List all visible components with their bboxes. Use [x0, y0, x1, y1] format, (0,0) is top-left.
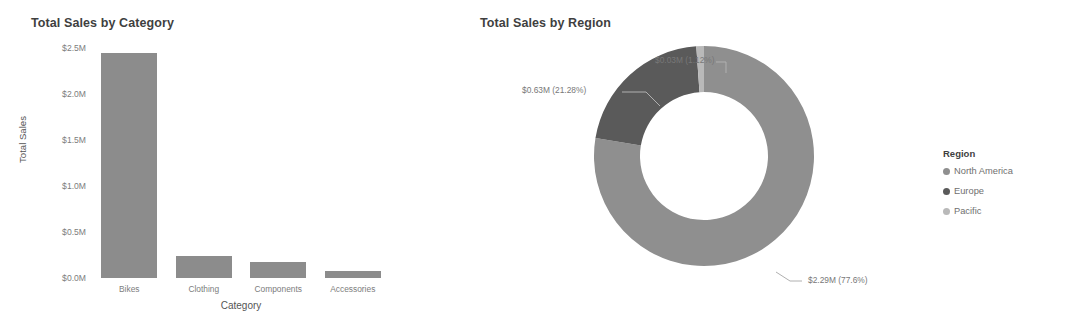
legend-swatch-icon	[943, 168, 950, 175]
bar-chart-x-tick: Components	[255, 284, 303, 294]
legend-title: Region	[943, 148, 1068, 159]
bar-chart-y-tick: $1.0M	[42, 181, 86, 191]
bar-chart-panel: Total Sales by Category Total Sales $2.5…	[0, 0, 460, 331]
bar-chart-y-axis-ticks: $2.5M$2.0M$1.5M$1.0M$0.5M$0.0M	[40, 48, 86, 278]
legend-item[interactable]: North America	[943, 166, 1068, 176]
bar-chart-bar[interactable]	[250, 48, 306, 278]
donut-chart-panel: Total Sales by Region $0.03M (1.12%) $0.…	[460, 0, 930, 331]
bar-chart-bar-rect	[250, 262, 306, 278]
donut-slice-label-north-america: $2.29M (77.6%)	[808, 275, 868, 285]
legend-swatch-icon	[943, 208, 950, 215]
bar-chart-x-tick: Clothing	[188, 284, 219, 294]
legend-items: North AmericaEuropePacific	[943, 166, 1068, 216]
donut-chart-graphic	[588, 40, 820, 272]
legend-swatch-icon	[943, 188, 950, 195]
bar-chart-x-tick: Accessories	[330, 284, 375, 294]
bar-chart-bar-rect	[101, 53, 157, 278]
bar-chart-bar[interactable]	[176, 48, 232, 278]
bar-chart-y-tick: $1.5M	[42, 135, 86, 145]
bar-chart-bar[interactable]	[101, 48, 157, 278]
donut-chart-title: Total Sales by Region	[480, 16, 611, 30]
bar-chart-plot-area	[92, 48, 390, 278]
bar-chart-bar[interactable]	[325, 48, 381, 278]
donut-slice-label-europe: $0.63M (21.28%)	[522, 85, 586, 95]
legend-item[interactable]: Europe	[943, 186, 1068, 196]
bar-chart-y-tick: $0.0M	[42, 273, 86, 283]
legend-item[interactable]: Pacific	[943, 206, 1068, 216]
bar-chart-y-axis-title: Total Sales	[17, 116, 28, 163]
bar-chart-title: Total Sales by Category	[31, 16, 174, 30]
legend-item-label: Pacific	[954, 206, 981, 216]
bar-chart-x-tick: Bikes	[119, 284, 139, 294]
bar-chart-bar-rect	[325, 271, 381, 278]
bar-chart-y-tick: $0.5M	[42, 227, 86, 237]
legend-item-label: Europe	[954, 186, 984, 196]
legend: Region North AmericaEuropePacific	[943, 148, 1068, 226]
legend-item-label: North America	[954, 166, 1013, 176]
bar-chart-y-tick: $2.5M	[42, 43, 86, 53]
bar-chart-x-axis-title: Category	[221, 300, 262, 311]
bar-chart-y-tick: $2.0M	[42, 89, 86, 99]
donut-slice-label-pacific: $0.03M (1.12%)	[655, 55, 715, 65]
bar-chart-bar-rect	[176, 256, 232, 278]
